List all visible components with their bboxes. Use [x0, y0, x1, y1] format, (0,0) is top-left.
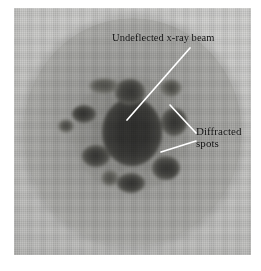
label-undeflected-beam: Undeflected x-ray beam: [112, 33, 215, 44]
label-diffracted-spots-line1: Diffracted: [196, 125, 242, 137]
x-ray-diffraction-figure: Undeflected x-ray beam Diffractedspots: [0, 0, 261, 271]
label-diffracted-spots: Diffractedspots: [196, 126, 242, 150]
label-diffracted-spots-line2: spots: [196, 138, 242, 149]
halo-inner: [72, 76, 188, 192]
